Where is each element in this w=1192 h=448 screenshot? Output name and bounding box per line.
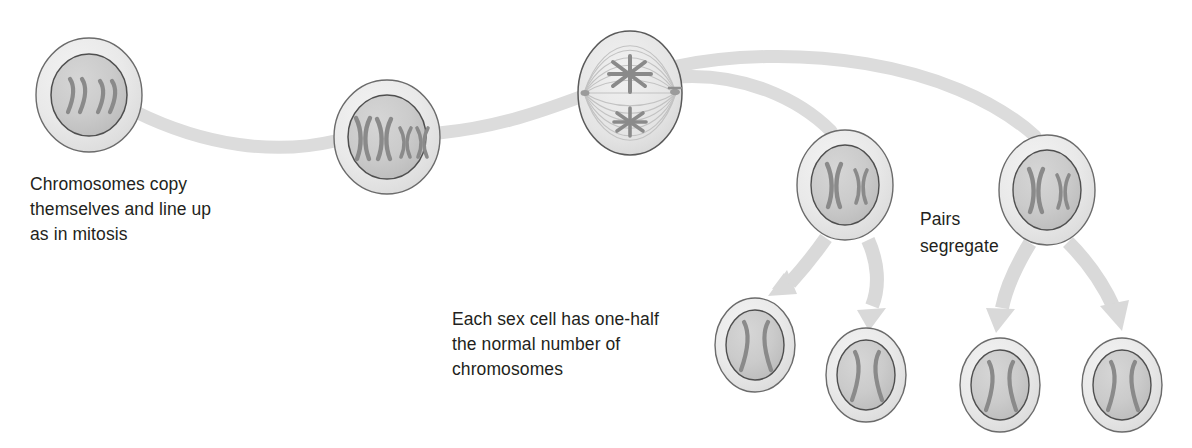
diagram-canvas: Chromosomes copy themselves and line up … bbox=[0, 0, 1192, 448]
caption-pairs-segregate-line-1: Pairs bbox=[920, 209, 961, 229]
arrow-daughter-left-to-gamete-2 bbox=[857, 240, 886, 331]
arrow-daughter-left-to-gamete-1 bbox=[768, 238, 826, 296]
caption-pairs-segregate-line-2: segregate bbox=[920, 236, 999, 256]
meiosis-diagram: Chromosomes copy themselves and line up … bbox=[0, 0, 1192, 448]
cell-interphase bbox=[36, 38, 142, 152]
connector-cell2-to-cell3 bbox=[439, 96, 583, 133]
caption-each-sex-cell-line-3: chromosomes bbox=[452, 359, 563, 379]
caption-each-sex-cell-line-2: the normal number of bbox=[452, 334, 620, 354]
cell-daughter-left bbox=[797, 130, 893, 240]
cell-metaphase-aligned bbox=[334, 80, 440, 194]
connector-cell3-to-daughter-left bbox=[676, 76, 831, 131]
caption-chromosomes-copy-line-3: as in mitosis bbox=[30, 224, 128, 244]
caption-pairs-segregate: Pairs segregate bbox=[920, 209, 999, 256]
caption-chromosomes-copy-line-2: themselves and line up bbox=[30, 199, 211, 219]
chromosome-cluster-upper bbox=[609, 56, 651, 92]
connector-cell3-to-daughter-right bbox=[672, 56, 1035, 136]
centriole-left bbox=[581, 90, 590, 96]
cell-spindle bbox=[578, 31, 682, 155]
arrow-daughter-right-to-gamete-3 bbox=[986, 243, 1030, 333]
gamete-4 bbox=[1082, 338, 1162, 432]
svg-text:Each sex cell has one-half: Each sex cell has one-half the normal nu… bbox=[452, 309, 664, 379]
chromosome-cluster-lower bbox=[614, 108, 646, 136]
svg-text:Chromosomes copy thems: Chromosomes copy themselves and line up … bbox=[30, 174, 216, 244]
gamete-2 bbox=[826, 328, 906, 422]
arrow-daughter-right-to-gamete-4 bbox=[1068, 242, 1129, 331]
caption-each-sex-cell-line-1: Each sex cell has one-half bbox=[452, 309, 659, 329]
gamete-1 bbox=[715, 298, 795, 392]
svg-text:Pairs segregate: Pairs segregate bbox=[920, 209, 999, 256]
connector-cell1-to-cell2 bbox=[136, 112, 335, 147]
caption-chromosomes-copy: Chromosomes copy themselves and line up … bbox=[30, 174, 216, 244]
caption-each-sex-cell: Each sex cell has one-half the normal nu… bbox=[452, 309, 664, 379]
cell-daughter-right bbox=[999, 135, 1095, 245]
caption-chromosomes-copy-line-1: Chromosomes copy bbox=[30, 174, 187, 194]
gamete-3 bbox=[960, 338, 1040, 432]
